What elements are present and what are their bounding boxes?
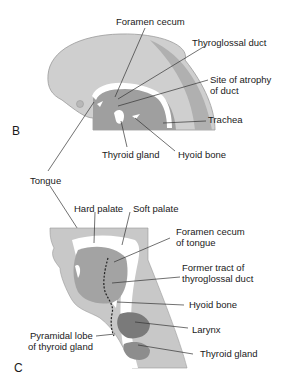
label-site-atrophy-line1: Site of atrophy <box>210 74 271 85</box>
label-hard-palate: Hard palate <box>74 203 123 214</box>
label-former-tract-line1: Former tract of <box>182 262 244 273</box>
label-thyroid-gland-c: Thyroid gland <box>200 348 258 359</box>
label-foramen-cecum: Foramen cecum <box>116 16 185 27</box>
label-pyramidal-lobe-line1: Pyramidal lobe <box>30 330 93 341</box>
label-former-tract-line2: thyroglossal duct <box>182 273 253 284</box>
label-thyroglossal-duct: Thyroglossal duct <box>192 37 266 48</box>
panel-b-embryo <box>48 34 215 130</box>
label-hyoid-bone-c: Hyoid bone <box>189 299 237 310</box>
label-pyramidal-lobe-line2: of thyroid gland <box>28 341 93 352</box>
panel-letter-c: C <box>14 361 23 375</box>
label-larynx: Larynx <box>192 324 221 335</box>
label-foramen-cecum-tongue-line2: of tongue <box>176 237 216 248</box>
panel-letter-b: B <box>12 124 20 138</box>
label-trachea: Trachea <box>208 114 243 125</box>
label-site-atrophy-line2: of duct <box>210 85 239 96</box>
label-soft-palate: Soft palate <box>133 203 178 214</box>
label-foramen-cecum-tongue-line1: Foramen cecum <box>176 226 245 237</box>
label-thyroid-gland-b: Thyroid gland <box>102 149 160 160</box>
label-tongue: Tongue <box>30 175 61 186</box>
label-hyoid-bone-b: Hyoid bone <box>178 149 226 160</box>
diagram-artwork <box>0 0 287 378</box>
